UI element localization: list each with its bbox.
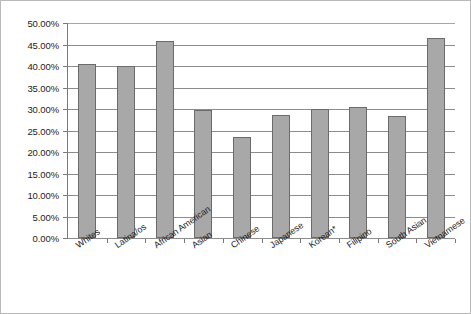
y-axis: 0.00%5.00%10.00%15.00%20.00%25.00%30.00%… [1,1,63,314]
y-axis-tick-label: 30.00% [27,104,59,115]
plot-area [67,23,455,239]
bar [388,116,406,238]
bar [311,109,329,238]
bar [427,38,445,238]
y-axis-tick-label: 45.00% [27,39,59,50]
y-axis-tick-mark [63,238,67,239]
y-axis-tick-mark [63,109,67,110]
y-axis-tick-label: 40.00% [27,61,59,72]
bar [117,66,135,238]
y-axis-tick-mark [63,217,67,218]
bar [233,137,251,238]
x-axis: WhitesLatina/osAfrican AmericanAsianChin… [67,242,467,314]
y-axis-tick-mark [63,152,67,153]
bars-group [68,23,455,238]
y-axis-tick-label: 0.00% [33,233,59,244]
y-axis-tick-mark [63,66,67,67]
y-axis-tick-mark [63,174,67,175]
y-axis-tick-label: 10.00% [27,190,59,201]
y-axis-tick-mark [63,195,67,196]
y-axis-tick-label: 5.00% [33,211,59,222]
y-axis-tick-mark [63,23,67,24]
y-axis-tick-mark [63,88,67,89]
y-axis-tick-label: 35.00% [27,82,59,93]
bar [349,107,367,238]
y-axis-tick-mark [63,45,67,46]
bar-chart: 0.00%5.00%10.00%15.00%20.00%25.00%30.00%… [0,0,471,314]
y-axis-tick-label: 50.00% [27,18,59,29]
y-axis-tick-label: 20.00% [27,147,59,158]
bar [78,64,96,238]
y-axis-tick-label: 25.00% [27,125,59,136]
bar [156,41,174,238]
y-axis-tick-mark [63,131,67,132]
y-axis-tick-label: 15.00% [27,168,59,179]
bar [272,115,290,238]
